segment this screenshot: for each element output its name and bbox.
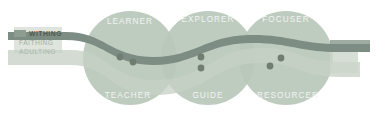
- legend-item-adulting[interactable]: ADULTING: [19, 48, 56, 55]
- dot-explorer-b[interactable]: [198, 65, 205, 72]
- circle-label-focuser: FOCUSER: [262, 15, 309, 24]
- dot-focuser-a[interactable]: [278, 55, 285, 62]
- dot-explorer-a[interactable]: [198, 54, 205, 61]
- circle-label-explorer: EXPLORER: [182, 15, 235, 24]
- circle-label-teacher: TEACHER: [105, 91, 151, 100]
- legend-item-withing[interactable]: WITHING: [29, 30, 62, 37]
- wave-tail-light: [330, 51, 358, 73]
- dot-learner-b[interactable]: [130, 59, 137, 66]
- diagram-canvas: LEARNER EXPLORER FOCUSER TEACHER GUIDE R…: [0, 0, 389, 117]
- circle-label-guide: GUIDE: [192, 91, 223, 100]
- legend-item-faithing[interactable]: FAITHING: [19, 39, 53, 46]
- circle-label-resourcer: RESOURCER: [257, 91, 319, 100]
- legend-swatch-withing: [14, 30, 26, 37]
- circle-label-learner: LEARNER: [107, 17, 153, 26]
- dot-learner-a[interactable]: [117, 54, 124, 61]
- role-wave-diagram: LEARNER EXPLORER FOCUSER TEACHER GUIDE R…: [0, 0, 389, 117]
- dot-focuser-b[interactable]: [267, 63, 274, 70]
